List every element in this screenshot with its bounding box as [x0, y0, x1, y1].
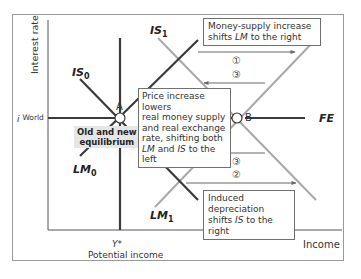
- ms-post: to the right: [248, 32, 302, 42]
- is0-label: IS0: [72, 66, 90, 81]
- money-supply-line2: shifts LM to the right: [208, 32, 316, 43]
- equilibrium-line2: equilibrium: [77, 137, 137, 147]
- is1-label-base: IS: [150, 24, 162, 37]
- price-line1: Price increase lowers: [142, 91, 227, 112]
- step-3-marker-top: ③: [232, 69, 241, 80]
- equilibrium-label: Old and new equilibrium: [74, 126, 140, 148]
- is1-label-sub: 1: [162, 30, 168, 39]
- is1-label: IS1: [150, 24, 168, 39]
- fe-label: FE: [319, 112, 334, 125]
- is0-label-base: IS: [72, 66, 84, 79]
- i-symbol: i: [17, 114, 20, 124]
- money-supply-annotation: Money-supply increase shifts LM to the r…: [203, 18, 321, 46]
- y-star-label: Y*: [112, 240, 122, 249]
- money-supply-line1: Money-supply increase: [208, 21, 316, 32]
- lm1-label-sub: 1: [168, 215, 174, 224]
- point-b: [232, 113, 242, 123]
- lm1-label: LM1: [150, 209, 174, 224]
- price-line3: and real exchange: [142, 123, 227, 134]
- lm0-label-base: LM: [73, 163, 91, 176]
- point-b-label: B: [245, 113, 252, 123]
- x-axis-label: Income: [303, 240, 340, 250]
- price-line5: LM and IS to the left: [142, 144, 227, 165]
- lm1-label-base: LM: [150, 209, 168, 222]
- step-1-marker: ①: [232, 55, 241, 66]
- is0-label-sub: 0: [84, 72, 90, 81]
- price-increase-annotation: Price increase lowers real money supply …: [138, 88, 231, 168]
- potential-income-label: Potential income: [88, 251, 163, 260]
- ms-pre: shifts: [208, 32, 235, 42]
- price-mid: and: [155, 144, 178, 154]
- depreciation-line2: shifts IS to the right: [208, 215, 290, 237]
- price-em1: LM: [142, 144, 155, 154]
- step-3-marker-bottom: ③: [232, 156, 241, 167]
- lm0-label: LM0: [73, 163, 97, 178]
- price-em2: IS: [177, 144, 185, 154]
- point-a: [115, 113, 125, 123]
- y-axis-label: Interest rate: [30, 15, 40, 74]
- dep-pre: shifts: [208, 215, 235, 225]
- step-2-marker: ②: [232, 169, 241, 180]
- ms-em: LM: [235, 32, 248, 42]
- price-line2: real money supply: [142, 112, 227, 123]
- equilibrium-line1: Old and new: [77, 127, 137, 137]
- depreciation-annotation: Induced depreciation shifts IS to the ri…: [203, 190, 295, 240]
- lm0-label-sub: 0: [91, 169, 97, 178]
- world-label: World: [22, 113, 44, 122]
- price-line4: rate, shifting both: [142, 133, 227, 144]
- point-a-label: A: [116, 102, 123, 112]
- depreciation-line1: Induced depreciation: [208, 193, 290, 215]
- i-world-label: i World: [17, 114, 44, 124]
